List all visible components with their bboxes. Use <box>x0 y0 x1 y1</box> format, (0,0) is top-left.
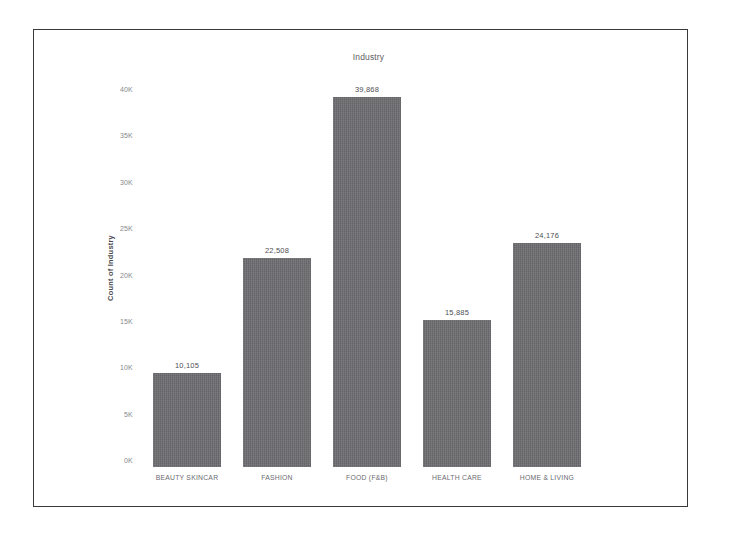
bar[interactable] <box>423 320 490 467</box>
y-axis-tick-label: 20K <box>120 271 133 278</box>
bar-value-label: 10,105 <box>175 361 199 370</box>
y-axis-tick-label: 35K <box>120 132 133 139</box>
bar[interactable] <box>513 243 580 467</box>
y-axis-tick-label: 0K <box>124 457 133 464</box>
bar[interactable] <box>243 258 310 467</box>
y-axis-tick-label: 10K <box>120 364 133 371</box>
y-axis-tick-label: 25K <box>120 225 133 232</box>
y-axis-tick-label: 15K <box>120 317 133 324</box>
chart-frame: Industry Count of Industry 0K5K10K15K20K… <box>33 29 688 507</box>
plot-area: 0K5K10K15K20K25K30K35K40K10,105BEAUTY SK… <box>142 96 592 467</box>
x-axis-category-label: FOOD (F&B) <box>346 474 388 481</box>
bar-value-label: 15,885 <box>445 308 469 317</box>
chart-title: Industry <box>42 52 695 62</box>
x-axis-category-label: FASHION <box>261 474 293 481</box>
y-axis-tick-label: 5K <box>124 410 133 417</box>
bar-value-label: 24,176 <box>535 231 559 240</box>
y-axis-tick-label: 30K <box>120 178 133 185</box>
bar-group: 15,885HEALTH CARE <box>423 96 490 467</box>
x-axis-category-label: HOME & LIVING <box>520 474 574 481</box>
bar-value-label: 39,868 <box>355 85 379 94</box>
x-axis-category-label: HEALTH CARE <box>432 474 482 481</box>
bar[interactable] <box>333 97 400 467</box>
bar-group: 10,105BEAUTY SKINCAR <box>153 96 220 467</box>
bar-value-label: 22,508 <box>265 246 289 255</box>
x-axis-category-label: BEAUTY SKINCAR <box>156 474 219 481</box>
y-axis-title: Count of Industry <box>106 235 115 301</box>
bar[interactable] <box>153 373 220 467</box>
bar-group: 22,508FASHION <box>243 96 310 467</box>
bar-group: 39,868FOOD (F&B) <box>333 96 400 467</box>
y-axis-tick-label: 40K <box>120 86 133 93</box>
bar-group: 24,176HOME & LIVING <box>513 96 580 467</box>
